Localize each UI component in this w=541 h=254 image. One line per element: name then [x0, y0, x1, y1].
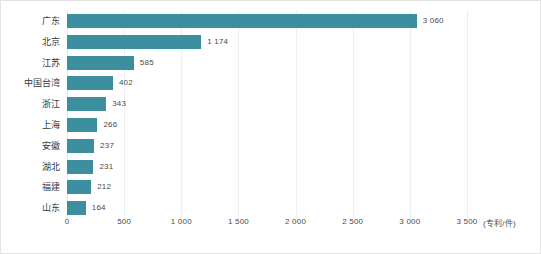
- bar-row: 湖北231: [67, 157, 467, 178]
- tick-label-0: 0: [65, 217, 70, 226]
- value-axis: 05001 0001 5002 0002 5003 0003 500 (专利/件…: [1, 209, 540, 233]
- tick-label-2500: 2 500: [342, 217, 363, 226]
- bar: [67, 76, 113, 90]
- tick-label-1500: 1 500: [228, 217, 249, 226]
- category-label: 江苏: [42, 56, 60, 70]
- bar: [67, 14, 417, 28]
- category-label: 福建: [42, 180, 60, 194]
- tick-label-2000: 2 000: [285, 217, 306, 226]
- category-label: 浙江: [42, 97, 60, 111]
- bar-chart-figure: 广东3 060北京1 174江苏585中国台湾402浙江343上海266安徽23…: [0, 0, 541, 254]
- bar-value-label: 402: [119, 76, 133, 90]
- bar-row: 北京1 174: [67, 32, 467, 53]
- category-label: 湖北: [42, 160, 60, 174]
- bar-row: 安徽237: [67, 136, 467, 157]
- bar: [67, 160, 93, 174]
- category-label: 上海: [42, 118, 60, 132]
- bar-row: 福建212: [67, 177, 467, 198]
- bar-value-label: 3 060: [423, 14, 444, 28]
- gridline-3500: [467, 11, 468, 219]
- bar-value-label: 343: [112, 97, 126, 111]
- bar: [67, 56, 134, 70]
- bar-value-label: 237: [100, 139, 114, 153]
- bar-value-label: 266: [103, 118, 117, 132]
- tick-label-3500: 3 500: [456, 217, 477, 226]
- tick-label-1000: 1 000: [171, 217, 192, 226]
- bar-value-label: 231: [99, 160, 113, 174]
- bar-value-label: 212: [97, 180, 111, 194]
- tick-label-3000: 3 000: [399, 217, 420, 226]
- category-label: 安徽: [42, 139, 60, 153]
- bar-value-label: 1 174: [207, 35, 228, 49]
- plot-area: 广东3 060北京1 174江苏585中国台湾402浙江343上海266安徽23…: [67, 11, 467, 219]
- bar-row: 上海266: [67, 115, 467, 136]
- bar: [67, 118, 97, 132]
- bar-row: 广东3 060: [67, 11, 467, 32]
- tick-label-500: 500: [117, 217, 131, 226]
- axis-unit-label: (专利/件): [483, 217, 516, 228]
- category-label: 北京: [42, 35, 60, 49]
- bar: [67, 180, 91, 194]
- bar-value-label: 585: [140, 56, 154, 70]
- bar-row: 浙江343: [67, 94, 467, 115]
- category-label: 中国台湾: [24, 76, 60, 90]
- bar-rows: 广东3 060北京1 174江苏585中国台湾402浙江343上海266安徽23…: [67, 11, 467, 219]
- bar: [67, 35, 201, 49]
- bar: [67, 139, 94, 153]
- bar-row: 中国台湾402: [67, 73, 467, 94]
- bar-row: 江苏585: [67, 53, 467, 74]
- bar: [67, 97, 106, 111]
- category-label: 广东: [42, 14, 60, 28]
